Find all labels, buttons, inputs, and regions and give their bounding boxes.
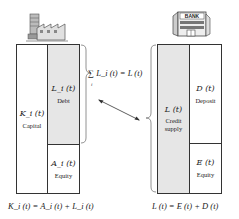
connector-graphics bbox=[0, 0, 239, 219]
arrowhead-left bbox=[98, 100, 104, 104]
bank-credit-brace bbox=[146, 45, 156, 192]
aggregation-formula: ∑ L_i (t) = L (t) bbox=[88, 68, 142, 78]
firm-debt-brace bbox=[81, 45, 91, 143]
aggregation-text: ∑ L_i (t) = L (t) bbox=[88, 68, 142, 78]
arrowhead-right bbox=[135, 117, 141, 121]
bank-identity: L (t) = E (t) + D (t) bbox=[152, 201, 218, 211]
double-arrow bbox=[99, 100, 139, 120]
sum-index: i bbox=[91, 82, 92, 87]
firm-identity: K_i (t) = A_i (t) + L_i (t) bbox=[8, 201, 94, 211]
